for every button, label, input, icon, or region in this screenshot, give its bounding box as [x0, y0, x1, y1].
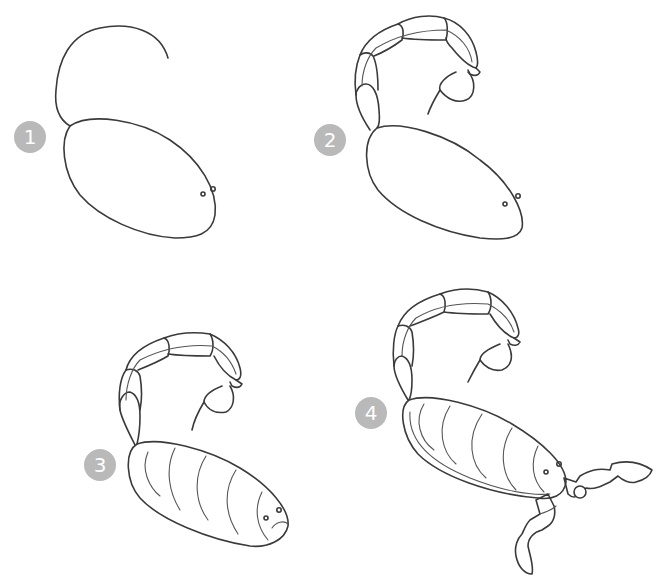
step-3-drawing — [119, 333, 288, 547]
step-1-drawing — [56, 26, 216, 238]
step-4-drawing — [393, 289, 652, 574]
step-2-drawing — [355, 16, 522, 239]
scorpion-drawings — [0, 0, 660, 582]
drawing-tutorial: 1 2 3 4 — [0, 0, 660, 582]
